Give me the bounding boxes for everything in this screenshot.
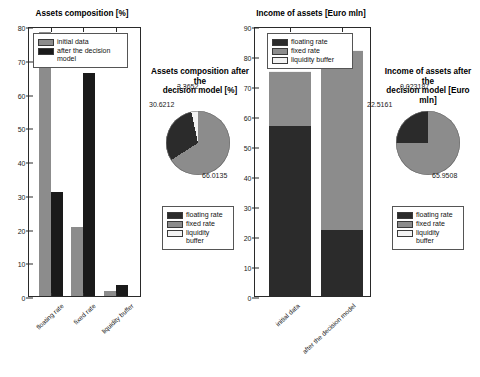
xtick-mark <box>116 28 117 32</box>
legend-label: liquidity buffer <box>186 229 229 246</box>
bar-after-liquidity-buffer <box>116 285 128 297</box>
legend-swatch-liquidity-buffer <box>167 230 183 237</box>
ytick-mark <box>252 298 256 299</box>
ytick-mark <box>252 28 256 29</box>
legend-assets-composition-pie: floating rate fixed rate liquidity buffe… <box>162 206 234 250</box>
pie-value-floating-rate: 22.5161 <box>367 101 392 108</box>
ytick-mark <box>252 148 256 149</box>
ytick-mark <box>29 95 33 96</box>
legend-label: after the decision model <box>57 47 110 64</box>
bar-initial-floating-rate <box>39 32 51 296</box>
xtick-mark <box>83 28 84 32</box>
ytick-mark <box>255 238 259 239</box>
legend-item: liquidity buffer <box>167 229 229 246</box>
bar-initial-liquidity-buffer <box>104 291 116 296</box>
ytick-mark <box>26 264 30 265</box>
legend-item: floating rate <box>397 211 459 220</box>
bar-after-floating-rate <box>51 192 63 296</box>
xtick-mark <box>51 28 52 32</box>
bar-initial-fixed-rate <box>71 227 83 296</box>
xtick-mark <box>83 293 84 297</box>
pie-value-floating-rate: 30.6212 <box>149 101 174 108</box>
ytick-mark <box>29 163 33 164</box>
segment-floating-rate <box>321 230 363 296</box>
legend-swatch-floating-rate <box>272 39 288 46</box>
legend-swatch-floating-rate <box>167 212 183 219</box>
bar-after-fixed-rate <box>83 73 95 296</box>
pie-value-liquidity-buffer: 3.3652 <box>177 83 198 90</box>
chart-title-income-of-assets: Income of assets [Euro mln] <box>244 9 378 19</box>
ytick-mark <box>29 61 33 62</box>
axes-assets-composition: 0 10 20 30 40 50 60 70 80 initial data <box>28 27 141 297</box>
ytick-mark <box>26 61 30 62</box>
panel-income-of-assets-pie: Income of assets after the decision mode… <box>380 0 480 377</box>
ytick-mark <box>26 163 30 164</box>
ytick-mark <box>255 208 259 209</box>
ytick-mark <box>255 298 259 299</box>
pie-assets-composition <box>166 111 230 175</box>
legend-label: floating rate <box>291 38 328 47</box>
ytick-mark <box>255 58 259 59</box>
pie-value-liquidity-buffer: 0.023187 <box>400 83 429 90</box>
legend-item: liquidity buffer <box>272 56 348 65</box>
legend-swatch-fixed-rate <box>272 48 288 55</box>
legend-item: initial data <box>38 38 123 47</box>
ytick-mark <box>26 129 30 130</box>
chart-title-line-2: decision model [%] <box>163 86 238 95</box>
xtick-mark <box>342 28 343 32</box>
legend-swatch-fixed-rate <box>397 221 413 228</box>
xtick-label-initial-data: initial data <box>255 302 301 345</box>
ytick-mark <box>255 178 259 179</box>
pie-value-fixed-rate: 65.9508 <box>432 172 457 179</box>
legend-item: floating rate <box>167 211 229 220</box>
legend-label: liquidity buffer <box>416 229 459 246</box>
ytick-mark <box>252 88 256 89</box>
ytick-mark <box>29 264 33 265</box>
axes-income-of-assets: 0 10 20 30 40 50 60 70 80 90 floating ra… <box>254 27 371 297</box>
legend-item: floating rate <box>272 38 348 47</box>
xtick-mark <box>116 293 117 297</box>
xtick-mark <box>342 293 343 297</box>
legend-item: liquidity buffer <box>397 229 459 246</box>
legend-swatch-liquidity-buffer <box>272 57 288 64</box>
pie-value-fixed-rate: 66.0135 <box>202 172 227 179</box>
legend-item: after the decision model <box>38 47 123 64</box>
ytick-mark <box>29 230 33 231</box>
segment-floating-rate <box>269 126 311 296</box>
panel-income-of-assets-bar: Income of assets [Euro mln] 0 10 20 30 4… <box>236 0 386 377</box>
figure-canvas: Assets composition [%] 0 10 20 30 40 50 … <box>0 0 480 377</box>
ytick-mark <box>252 118 256 119</box>
ytick-mark <box>252 238 256 239</box>
legend-label: fixed rate <box>416 220 445 229</box>
ytick-mark <box>252 268 256 269</box>
legend-label: fixed rate <box>291 47 320 56</box>
ytick-mark <box>252 178 256 179</box>
ytick-mark <box>26 298 30 299</box>
legend-item: fixed rate <box>167 220 229 229</box>
ytick-mark <box>26 95 30 96</box>
legend-income-of-assets-pie: floating rate fixed rate liquidity buffe… <box>392 206 464 250</box>
legend-label: fixed rate <box>186 220 215 229</box>
xtick-label-after-decision-model: after the decision model <box>285 302 357 370</box>
legend-swatch-liquidity-buffer <box>397 230 413 237</box>
chart-title-assets-composition: Assets composition [%] <box>12 9 152 19</box>
legend-item: fixed rate <box>272 47 348 56</box>
legend-swatch-after-model <box>38 48 54 55</box>
panel-assets-composition-pie: Assets composition after the decision mo… <box>150 0 250 377</box>
ytick-mark <box>255 268 259 269</box>
panel-assets-composition-bar: Assets composition [%] 0 10 20 30 40 50 … <box>0 0 160 377</box>
legend-label: liquidity buffer <box>291 56 334 65</box>
legend-item: fixed rate <box>397 220 459 229</box>
ytick-mark <box>26 230 30 231</box>
ytick-mark <box>29 28 33 29</box>
chart-title-line-1: Assets composition after the <box>151 67 249 86</box>
ytick-mark <box>29 196 33 197</box>
ytick-mark <box>26 196 30 197</box>
ytick-mark <box>255 118 259 119</box>
ytick-mark <box>29 129 33 130</box>
ytick-mark <box>252 58 256 59</box>
ytick-mark <box>252 208 256 209</box>
segment-fixed-rate <box>321 50 363 230</box>
chart-title-assets-composition-pie: Assets composition after the decision mo… <box>150 67 250 96</box>
legend-swatch-fixed-rate <box>167 221 183 228</box>
